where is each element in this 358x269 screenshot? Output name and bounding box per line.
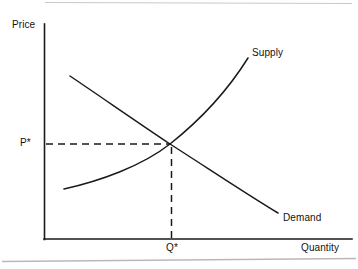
demand-curve-label: Demand [283,212,321,223]
scan-rule-bottom [2,259,356,262]
supply-curve [64,58,248,189]
demand-curve [70,76,278,213]
equilibrium-price-label: P* [20,137,31,148]
equilibrium-quantity-label: Q* [166,242,178,253]
supply-curve-label: Supply [252,47,283,58]
supply-demand-chart-figure: Price Supply Demand Quantity P* Q* [0,0,358,269]
y-axis-title: Price [12,19,35,30]
chart-canvas [0,0,358,269]
x-axis-title: Quantity [301,242,339,253]
scan-rule-top [45,3,352,4]
